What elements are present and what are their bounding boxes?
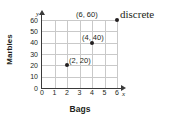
- y-axis-title: Marbles: [5, 20, 14, 80]
- x-tick-label: 5: [100, 89, 110, 97]
- x-axis-tick-labels: 0 1 2 3 4 5 6: [0, 89, 169, 99]
- gridline-x-4: [92, 20, 93, 88]
- data-point-label: (2, 20): [69, 57, 91, 65]
- y-tick-label: 60: [24, 17, 38, 25]
- gridline-x-1: [55, 20, 56, 88]
- gridline-x-2: [67, 20, 68, 88]
- x-tick-label: 1: [50, 89, 60, 97]
- x-axis-title: Bags: [30, 104, 130, 114]
- data-point-label: (4, 40): [82, 34, 104, 42]
- y-tick-label: 50: [24, 28, 38, 36]
- x-tick-label: 6: [112, 89, 122, 97]
- x-tick-label: 4: [87, 89, 97, 97]
- y-tick-label: 20: [24, 62, 38, 70]
- x-tick-label: 2: [62, 89, 72, 97]
- scatter-plot-figure: y x 60 50 40 30 20 10 0 0 1 2 3 4 5 6 (2…: [0, 0, 169, 128]
- y-tick-label: 40: [24, 39, 38, 47]
- y-tick-label: 30: [24, 51, 38, 59]
- x-tick-label: 3: [75, 89, 85, 97]
- y-axis-arrow-icon: [39, 10, 45, 15]
- plot-area: [42, 20, 117, 88]
- y-tick-label: 10: [24, 73, 38, 81]
- gridline-x-5: [105, 20, 106, 88]
- x-tick-label: 0: [37, 89, 47, 97]
- data-point-label: (6, 60): [76, 11, 98, 19]
- gridline-x-6: [117, 20, 118, 88]
- gridline-x-3: [80, 20, 81, 88]
- data-point: [115, 18, 119, 22]
- y-axis-line: [41, 14, 42, 89]
- annotation-discrete: discrete: [120, 8, 154, 20]
